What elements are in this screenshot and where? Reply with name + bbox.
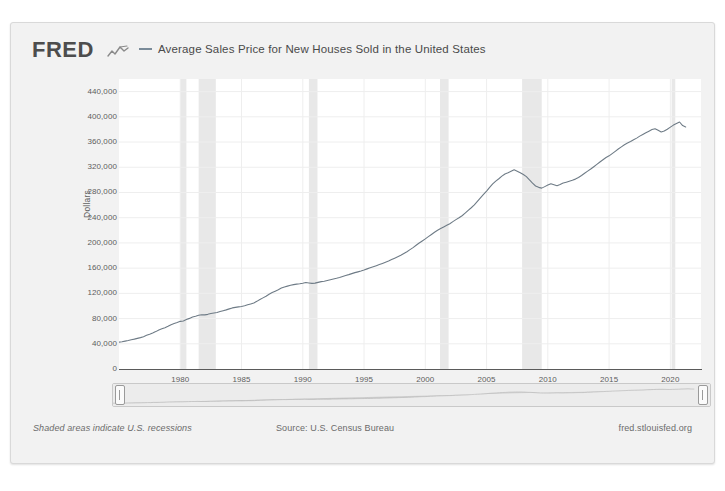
y-axis-tick-label: 120,000 xyxy=(59,288,117,297)
y-axis-tick-label: 440,000 xyxy=(59,87,117,96)
fred-url-link[interactable]: fred.stlouisfed.org xyxy=(619,423,692,433)
y-axis-tick-label: 40,000 xyxy=(59,339,117,348)
plot-area-wrapper: Dollars 440,000400,000360,000320,000280,… xyxy=(119,79,701,369)
y-axis-label: Dollars xyxy=(82,174,92,234)
y-axis-tick-label: 240,000 xyxy=(59,213,117,222)
chart-footer: Shaded areas indicate U.S. recessions So… xyxy=(11,415,714,445)
y-axis-tick-label: 280,000 xyxy=(59,187,117,196)
recession-note: Shaded areas indicate U.S. recessions xyxy=(33,423,192,433)
plot-area[interactable] xyxy=(119,79,701,369)
chart-canvas xyxy=(119,79,701,369)
fred-chart-card: FRED Average Sales Price for New Houses … xyxy=(10,22,715,464)
line-legend-dash-icon xyxy=(139,48,152,50)
y-axis-tick-label: 0 xyxy=(59,364,117,373)
range-selector-preview xyxy=(113,384,710,406)
y-axis-tick-label: 400,000 xyxy=(59,112,117,121)
y-axis-tick-label: 160,000 xyxy=(59,263,117,272)
x-axis-baseline xyxy=(119,369,702,370)
chart-legend[interactable]: Average Sales Price for New Houses Sold … xyxy=(139,43,486,55)
date-range-selector[interactable] xyxy=(112,383,711,407)
line-chart-squiggle-icon xyxy=(107,45,129,59)
y-axis-tick-label: 360,000 xyxy=(59,137,117,146)
source-note: Source: U.S. Census Bureau xyxy=(276,423,394,433)
chart-title: Average Sales Price for New Houses Sold … xyxy=(158,43,486,55)
y-axis-tick-label: 200,000 xyxy=(59,238,117,247)
y-axis-tick-label: 320,000 xyxy=(59,162,117,171)
range-handle-right[interactable] xyxy=(698,385,708,405)
fred-logo[interactable]: FRED xyxy=(32,39,94,61)
range-handle-left[interactable] xyxy=(115,385,125,405)
y-axis-tick-label: 80,000 xyxy=(59,314,117,323)
chart-header: FRED Average Sales Price for New Houses … xyxy=(11,23,714,57)
fred-chart-screenshot: FRED Average Sales Price for New Houses … xyxy=(0,0,725,491)
